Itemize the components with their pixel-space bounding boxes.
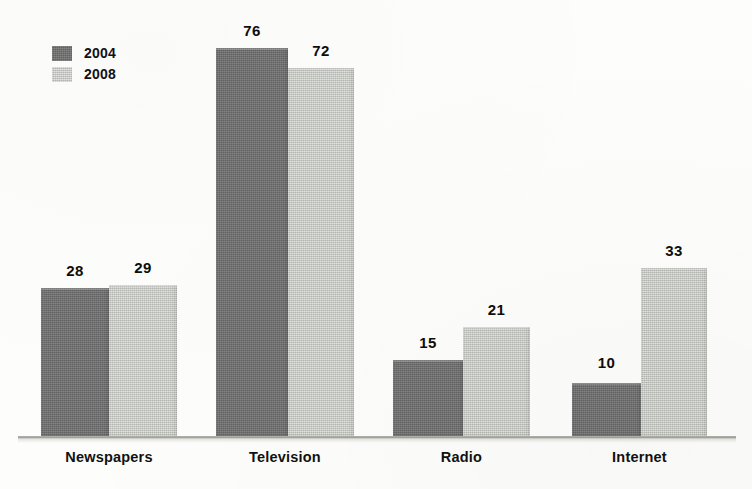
value-label-newspapers-2004: 28: [41, 262, 109, 279]
value-label-internet-2008: 33: [641, 242, 707, 259]
category-label-television: Television: [216, 449, 354, 465]
legend-item-2004: 2004: [52, 44, 116, 62]
category-label-internet: Internet: [572, 449, 707, 465]
bar-highlight: [288, 68, 354, 70]
bar-chart: 2004 2008 28 29 Newspapers 76 72 Televis…: [0, 0, 752, 489]
bar-highlight: [393, 360, 463, 362]
bar-television-2004: [216, 48, 288, 436]
bar-highlight: [216, 48, 288, 50]
value-label-television-2004: 76: [216, 22, 288, 39]
legend-label-2004: 2004: [84, 46, 116, 60]
value-label-radio-2008: 21: [463, 301, 530, 318]
value-label-newspapers-2008: 29: [109, 259, 177, 276]
bar-internet-2008: [641, 268, 707, 436]
bar-newspapers-2004: [41, 288, 109, 436]
chart-legend: 2004 2008: [52, 44, 116, 86]
baseline-shadow: [18, 439, 736, 443]
value-label-internet-2004: 10: [572, 354, 641, 371]
value-label-television-2008: 72: [288, 42, 354, 59]
legend-item-2008: 2008: [52, 65, 116, 83]
bar-highlight: [641, 268, 707, 270]
bar-television-2008: [288, 68, 354, 436]
x-axis-baseline: [18, 436, 736, 439]
value-label-radio-2004: 15: [393, 334, 463, 351]
bar-highlight: [463, 327, 530, 329]
legend-label-2008: 2008: [84, 67, 116, 81]
bar-highlight: [109, 285, 177, 287]
category-label-radio: Radio: [393, 449, 530, 465]
bar-newspapers-2008: [109, 285, 177, 436]
dark-gray-swatch-icon: [52, 46, 72, 61]
light-gray-swatch-icon: [52, 67, 72, 82]
bar-highlight: [41, 288, 109, 290]
bar-radio-2008: [463, 327, 530, 436]
bar-internet-2004: [572, 383, 641, 436]
bar-radio-2004: [393, 360, 463, 436]
category-label-newspapers: Newspapers: [41, 449, 177, 465]
bar-highlight: [572, 383, 641, 385]
